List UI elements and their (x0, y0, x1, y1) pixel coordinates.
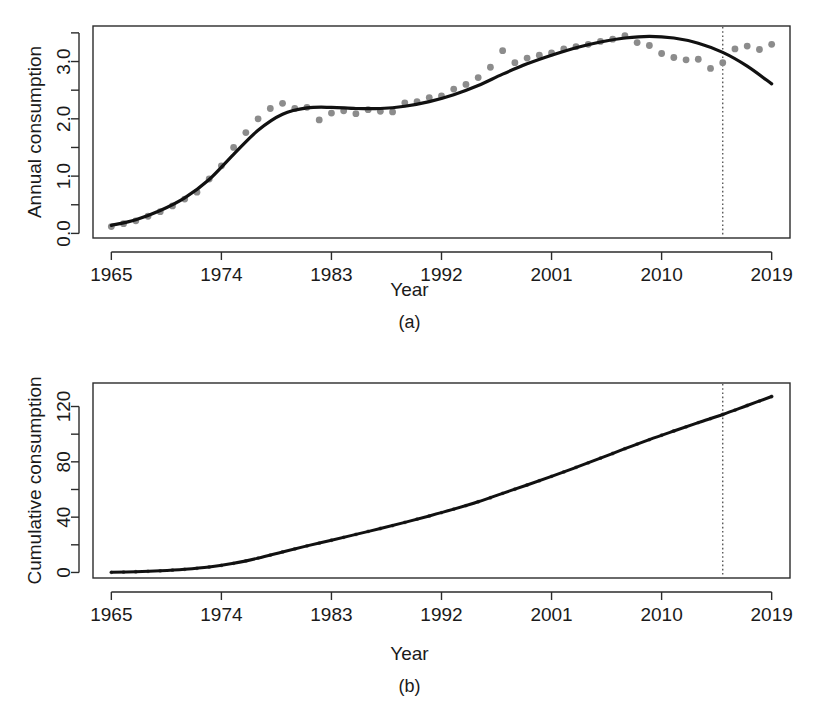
y-tick-label-120: 120 (54, 391, 75, 423)
data-point (524, 55, 531, 62)
y-tick-label-1.0: 1.0 (54, 163, 75, 189)
figure-container: 19651974198319922001201020190.01.02.03.0… (0, 0, 819, 717)
data-point (719, 59, 726, 66)
data-point (267, 105, 274, 112)
data-point (463, 81, 470, 88)
y-axis-title: Annual consumption (24, 46, 45, 218)
data-point (316, 117, 323, 124)
series-points-cumulative-observed (109, 395, 773, 575)
panel-a: 19651974198319922001201020190.01.02.03.0… (0, 0, 819, 348)
data-point (744, 43, 751, 50)
y-tick-label-2.0: 2.0 (54, 106, 75, 132)
y-tick-label-3.0: 3.0 (54, 48, 75, 74)
plot-frame (93, 383, 790, 578)
data-point (646, 42, 653, 49)
data-point (670, 54, 677, 61)
y-tick-label-0.0: 0.0 (54, 220, 75, 246)
data-point (499, 47, 506, 54)
x-tick-label-1983: 1983 (310, 604, 352, 625)
panel-a-caption: (a) (0, 312, 819, 333)
data-point (279, 100, 286, 107)
data-point (732, 46, 739, 53)
data-point (328, 110, 335, 117)
data-point (756, 46, 763, 53)
data-point (683, 56, 690, 63)
series-line-fitted-trend (111, 36, 771, 225)
x-tick-label-1965: 1965 (90, 604, 132, 625)
panel-b-caption: (b) (0, 676, 819, 697)
x-tick-label-2001: 2001 (530, 604, 572, 625)
data-point (353, 110, 360, 117)
x-tick-label-2019: 2019 (751, 604, 793, 625)
x-tick-label-1974: 1974 (200, 604, 243, 625)
series-points-observed (108, 32, 775, 230)
data-point (658, 50, 665, 57)
data-point (634, 39, 641, 46)
y-tick-label-40: 40 (54, 507, 75, 528)
data-point (242, 129, 249, 136)
data-point (255, 115, 262, 122)
data-point (450, 86, 457, 93)
panel-b-x-axis-title: Year (0, 643, 819, 665)
data-point (475, 74, 482, 81)
data-point (487, 64, 494, 71)
y-axis-title: Cumulative consumption (24, 376, 45, 584)
data-point (707, 65, 714, 72)
data-point (389, 109, 396, 116)
y-tick-label-0: 0 (54, 567, 75, 578)
data-point (511, 59, 518, 66)
x-tick-label-2010: 2010 (640, 604, 682, 625)
data-point (768, 41, 775, 48)
x-tick-label-1992: 1992 (420, 604, 462, 625)
data-point (695, 56, 702, 63)
series-line-cumulative-fitted (111, 397, 771, 573)
panel-a-x-axis-title: Year (0, 279, 819, 301)
y-tick-label-80: 80 (54, 451, 75, 472)
